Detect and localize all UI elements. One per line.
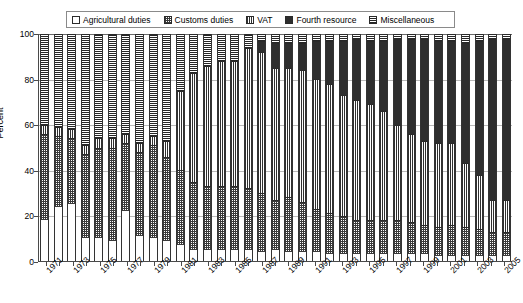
bar-segment-agricultural-duties xyxy=(231,250,238,261)
bar-segment-fourth-resource xyxy=(476,41,483,175)
bar-1999[interactable] xyxy=(420,34,429,261)
bar-1993[interactable] xyxy=(339,34,348,261)
bar-2005[interactable] xyxy=(502,34,511,261)
bar-segment-customs-duties xyxy=(204,186,211,250)
bar-segment-agricultural-duties xyxy=(122,211,129,261)
bar-1996[interactable] xyxy=(379,34,388,261)
bar-segment-agricultural-duties xyxy=(41,220,48,261)
bar-segment-vat xyxy=(258,52,265,193)
bar-1976[interactable] xyxy=(108,34,117,261)
bar-segment-miscellaneous xyxy=(476,34,483,41)
bar-1978[interactable] xyxy=(135,34,144,261)
legend-label-vat: VAT xyxy=(257,15,272,25)
bar-segment-vat xyxy=(421,141,428,225)
bar-1991[interactable] xyxy=(312,34,321,261)
bar-segment-miscellaneous xyxy=(326,34,333,41)
bar-1994[interactable] xyxy=(352,34,361,261)
bar-segment-customs-duties xyxy=(136,152,143,236)
legend-swatch-fourth-resource xyxy=(285,16,293,24)
bar-segment-miscellaneous xyxy=(136,34,143,143)
bar-segment-vat xyxy=(41,125,48,134)
bar-segment-miscellaneous xyxy=(163,34,170,141)
bar-segment-customs-duties xyxy=(340,216,347,255)
bar-segment-vat xyxy=(394,125,401,220)
bar-1980[interactable] xyxy=(162,34,171,261)
bar-1987[interactable] xyxy=(257,34,266,261)
bar-segment-vat xyxy=(177,91,184,170)
bar-1974[interactable] xyxy=(81,34,90,261)
bar-1989[interactable] xyxy=(284,34,293,261)
bar-segment-agricultural-duties xyxy=(394,254,401,261)
bar-1983[interactable] xyxy=(203,34,212,261)
bar-segment-customs-duties xyxy=(41,134,48,220)
x-axis-ticks: 1971197319751977197919811983198519871989… xyxy=(38,262,512,303)
bar-segment-customs-duties xyxy=(55,136,62,206)
bar-segment-vat xyxy=(313,79,320,208)
bar-1975[interactable] xyxy=(94,34,103,261)
bar-2003[interactable] xyxy=(475,34,484,261)
bar-1979[interactable] xyxy=(149,34,158,261)
bar-1990[interactable] xyxy=(298,34,307,261)
bar-1985[interactable] xyxy=(230,34,239,261)
bar-segment-customs-duties xyxy=(285,197,292,251)
bar-segment-miscellaneous xyxy=(190,34,197,73)
bar-1988[interactable] xyxy=(271,34,280,261)
y-tick-mark-100 xyxy=(34,34,38,35)
x-tick-mark-1992 xyxy=(329,262,330,266)
bar-segment-miscellaneous xyxy=(313,34,320,41)
legend-label-fourth-resource: Fourth resource xyxy=(296,15,356,25)
bar-1972[interactable] xyxy=(54,34,63,261)
bar-2004[interactable] xyxy=(488,34,497,261)
bar-segment-vat xyxy=(204,66,211,186)
x-tick-mark-2002 xyxy=(464,262,465,266)
bar-segment-miscellaneous xyxy=(150,34,157,136)
bar-segment-vat xyxy=(122,134,129,143)
bar-segment-customs-duties xyxy=(150,145,157,238)
y-tick-label-0: 0 xyxy=(4,257,34,267)
bar-series-container xyxy=(39,34,512,261)
bar-1995[interactable] xyxy=(366,34,375,261)
bar-segment-fourth-resource xyxy=(503,39,510,200)
bar-1971[interactable] xyxy=(40,34,49,261)
bar-segment-miscellaneous xyxy=(68,34,75,129)
bar-segment-fourth-resource xyxy=(380,41,387,111)
bar-segment-customs-duties xyxy=(503,232,510,257)
bar-segment-customs-duties xyxy=(245,188,252,249)
legend-swatch-miscellaneous xyxy=(369,16,377,24)
bar-segment-fourth-resource xyxy=(326,41,333,84)
bar-1984[interactable] xyxy=(217,34,226,261)
bar-segment-customs-duties xyxy=(408,222,415,254)
bar-segment-customs-duties xyxy=(231,186,238,250)
bar-segment-miscellaneous xyxy=(82,34,89,145)
legend-swatch-vat xyxy=(246,16,254,24)
bar-segment-customs-duties xyxy=(489,232,496,257)
bar-1998[interactable] xyxy=(407,34,416,261)
legend-label-miscellaneous: Miscellaneous xyxy=(380,15,434,25)
bar-segment-agricultural-duties xyxy=(177,245,184,261)
bar-1981[interactable] xyxy=(176,34,185,261)
bar-segment-miscellaneous xyxy=(95,34,102,138)
bar-2002[interactable] xyxy=(461,34,470,261)
bar-1997[interactable] xyxy=(393,34,402,261)
bar-segment-fourth-resource xyxy=(394,39,401,125)
y-tick-mark-40 xyxy=(34,171,38,172)
bar-2001[interactable] xyxy=(447,34,456,261)
bar-segment-vat xyxy=(218,61,225,186)
bar-1982[interactable] xyxy=(189,34,198,261)
bar-segment-customs-duties xyxy=(177,170,184,245)
bar-segment-customs-duties xyxy=(380,220,387,254)
bar-segment-customs-duties xyxy=(190,182,197,250)
bar-1986[interactable] xyxy=(244,34,253,261)
bar-2000[interactable] xyxy=(434,34,443,261)
bar-segment-customs-duties xyxy=(122,143,129,211)
x-tick-mark-1994 xyxy=(356,262,357,266)
bar-1992[interactable] xyxy=(325,34,334,261)
x-tick-mark-1974 xyxy=(86,262,87,266)
bar-segment-vat xyxy=(150,136,157,145)
bar-1973[interactable] xyxy=(67,34,76,261)
bar-segment-vat xyxy=(231,61,238,186)
plot-area xyxy=(38,34,512,262)
x-tick-mark-1984 xyxy=(221,262,222,266)
bar-1977[interactable] xyxy=(121,34,130,261)
